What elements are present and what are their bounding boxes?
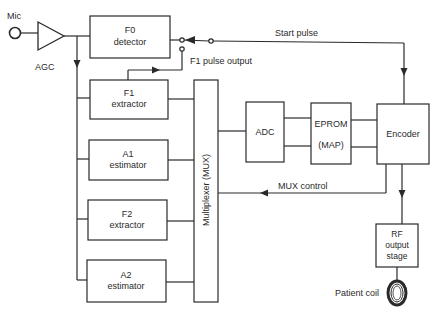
adc-block: ADC [246,102,284,162]
svg-text:A2: A2 [120,270,131,280]
agc-label: AGC [35,62,55,72]
patient-coil-label: Patient coil [335,288,379,298]
svg-text:Encoder: Encoder [386,129,420,139]
eprom-block: EPROM (MAP) [311,103,351,164]
multiplexer-block: Multiplexer (MUX) [194,80,218,302]
svg-text:output: output [385,240,409,250]
mux-label: Multiplexer (MUX) [201,154,211,226]
svg-text:ADC: ADC [255,127,275,137]
f1-extractor-block: F1 extractor [90,80,168,119]
start-pulse-arrow-icon [401,68,408,76]
patient-coil-icon [388,281,406,305]
svg-text:extractor: extractor [111,99,146,109]
mux-control-label: MUX control [278,181,328,191]
microphone-icon [10,28,39,39]
f2-extractor-block: F2 extractor [88,200,167,240]
mic-label: Mic [7,11,21,21]
svg-text:(MAP): (MAP) [318,140,344,150]
switch-contact-f1 [180,47,184,51]
switch-common [209,39,213,43]
f0-detector-block: F0 detector [90,16,170,58]
svg-text:A1: A1 [122,149,133,159]
svg-text:F0: F0 [125,25,136,35]
encoder-block: Encoder [377,104,429,164]
f1-pulse-arrow-icon [152,67,160,74]
svg-text:RF: RF [391,229,402,239]
svg-text:estimator: estimator [109,160,146,170]
svg-text:detector: detector [114,37,147,47]
start-pulse-label: Start pulse [275,28,318,38]
switch-contact-f0 [180,38,184,42]
svg-text:F2: F2 [122,209,133,219]
switch-arrow-icon [185,36,195,44]
rf-arrow-icon [399,190,406,198]
svg-text:stage: stage [387,251,408,261]
a1-estimator-block: A1 estimator [89,140,168,180]
mux-control-arrow-icon [260,190,268,197]
svg-text:EPROM: EPROM [314,119,347,129]
svg-text:F1: F1 [124,88,135,98]
agc-amplifier-icon [38,22,64,50]
svg-text:extractor: extractor [109,220,144,230]
a2-estimator-block: A2 estimator [87,260,166,302]
block-diagram: Mic AGC F0 detector Start pulse F1 pulse… [0,0,441,314]
rf-output-stage-block: RF output stage [376,224,418,267]
f1-pulse-output-label: F1 pulse output [190,56,253,66]
svg-text:estimator: estimator [107,281,144,291]
start-pulse-wire [213,41,404,43]
trunk-arrow-icon [74,60,81,68]
